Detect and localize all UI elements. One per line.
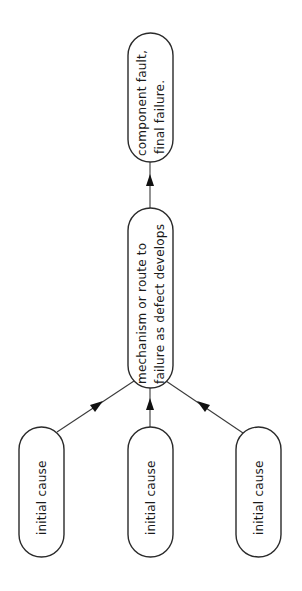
edge-cause3-to-mechanism <box>166 381 243 433</box>
node-cause3-label: initial cause <box>252 460 266 535</box>
node-final-line-1: component fault, <box>135 50 149 156</box>
edge-cause2-to-mechanism <box>146 388 154 427</box>
failure-flow-diagram: component fault, final failure. mechanis… <box>0 0 302 591</box>
edge-mechanism-to-final <box>146 162 154 208</box>
arrowhead-icon <box>90 401 103 412</box>
node-mechanism-line-2: failure as defect develops <box>153 224 167 384</box>
node-initial-cause-2: initial cause <box>128 427 173 557</box>
node-mechanism: mechanism or route to failure as defect … <box>128 208 173 388</box>
arrowhead-icon <box>146 398 154 410</box>
node-cause2-label: initial cause <box>144 460 158 535</box>
node-initial-cause-1: initial cause <box>19 427 64 557</box>
node-initial-cause-3: initial cause <box>236 427 281 557</box>
edge-cause1-to-mechanism <box>57 381 134 432</box>
node-final-line-2: final failure. <box>153 80 167 154</box>
node-final-failure: component fault, final failure. <box>128 33 173 162</box>
node-mechanism-line-1: mechanism or route to <box>135 243 149 384</box>
arrowhead-icon <box>197 401 210 412</box>
node-cause1-label: initial cause <box>35 460 49 535</box>
arrowhead-icon <box>146 174 154 186</box>
